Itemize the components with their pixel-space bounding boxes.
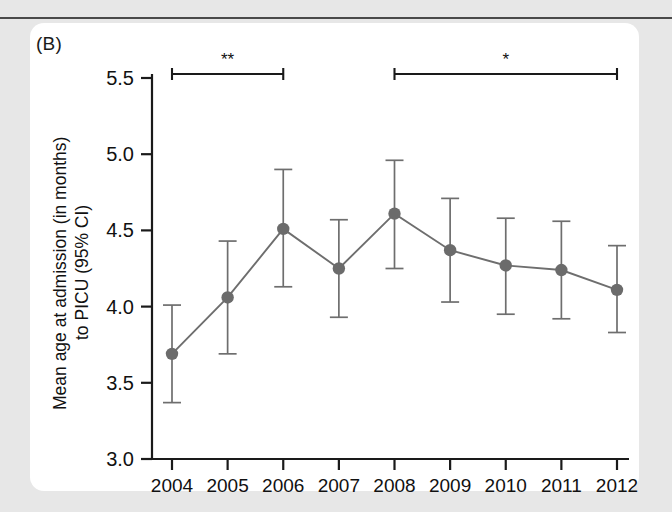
x-tick-label: 2012 — [596, 475, 638, 496]
data-point-marker — [388, 207, 400, 219]
x-tick-label: 2009 — [429, 475, 471, 496]
line-chart: Mean age at admission (in months) to PIC… — [0, 0, 672, 512]
y-tick-label: 3.0 — [106, 448, 134, 470]
x-axis-ticks: 200420052006200720082009201020112012 — [151, 459, 638, 496]
x-tick-label: 2010 — [485, 475, 527, 496]
y-tick-label: 5.0 — [106, 143, 134, 165]
x-tick-label: 2006 — [262, 475, 304, 496]
x-tick-label: 2004 — [151, 475, 194, 496]
data-point-marker — [555, 264, 567, 276]
significance-label: ** — [221, 50, 235, 69]
y-axis-ticks: 3.03.54.04.55.05.5 — [106, 67, 152, 470]
significance-label: * — [502, 50, 509, 69]
data-point-marker — [444, 244, 456, 256]
error-bars-group — [163, 160, 626, 402]
data-point-marker — [221, 291, 233, 303]
y-axis-title-line2: to PICU (95% CI) — [72, 205, 92, 340]
y-tick-label: 4.0 — [106, 296, 134, 318]
x-tick-label: 2008 — [373, 475, 415, 496]
data-point-marker — [333, 262, 345, 274]
y-axis-title-line1: Mean age at admission (in months) — [50, 137, 70, 410]
data-point-marker — [277, 223, 289, 235]
y-tick-label: 3.5 — [106, 372, 134, 394]
x-tick-label: 2007 — [318, 475, 360, 496]
y-tick-label: 4.5 — [106, 219, 134, 241]
y-axis-title: Mean age at admission (in months) to PIC… — [50, 137, 92, 410]
x-tick-label: 2011 — [541, 475, 582, 496]
data-point-marker — [611, 284, 623, 296]
y-tick-label: 5.5 — [106, 67, 134, 89]
x-tick-label: 2005 — [206, 475, 248, 496]
data-point-marker — [166, 348, 178, 360]
significance-brackets-group: *** — [172, 50, 617, 80]
data-point-marker — [500, 259, 512, 271]
